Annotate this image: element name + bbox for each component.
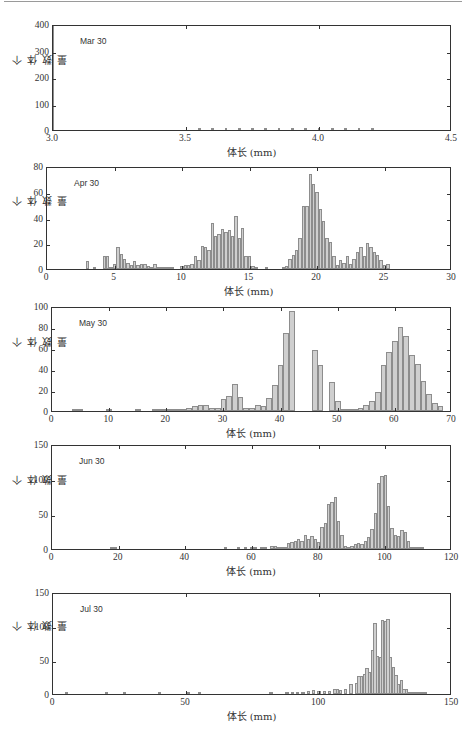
x-tick-label: 5 (99, 272, 129, 282)
histogram-bar (438, 406, 444, 411)
x-tick-label: 0 (36, 552, 66, 562)
x-tick (385, 446, 386, 449)
y-tick-label: 80 (17, 162, 43, 172)
y-tick (447, 194, 450, 195)
y-tick-label: 20 (17, 239, 43, 249)
bars-layer (52, 446, 450, 549)
x-tick (166, 408, 167, 411)
y-tick (53, 79, 56, 80)
histogram-bar (424, 692, 427, 694)
y-tick (447, 662, 450, 663)
panel-date-annotation: Mar 30 (80, 36, 106, 46)
x-tick-label: 50 (322, 414, 352, 424)
x-tick (319, 546, 320, 549)
x-tick-label: 0 (36, 414, 66, 424)
x-tick-label: 10 (93, 414, 123, 424)
y-tick-label: 200 (23, 73, 49, 83)
x-tick-label: 4.5 (436, 133, 466, 143)
bars-layer (47, 168, 450, 269)
histogram-bar (312, 690, 315, 694)
histogram-bar (187, 692, 190, 694)
x-tick (338, 408, 339, 411)
histogram-bar (170, 267, 173, 269)
histogram-bar (291, 128, 294, 130)
x-tick-label: 20 (150, 414, 180, 424)
x-tick (115, 266, 116, 269)
y-tick (47, 245, 50, 246)
x-tick (223, 408, 224, 411)
y-tick-label: 40 (22, 365, 48, 375)
x-tick (281, 308, 282, 311)
x-tick-label: 0 (37, 697, 67, 707)
x-tick-label: 20 (103, 552, 133, 562)
y-tick-label: 100 (22, 302, 48, 312)
y-tick (447, 53, 450, 54)
bars-layer (53, 26, 450, 130)
x-tick (319, 446, 320, 449)
y-tick (53, 106, 56, 107)
x-tick-label: 25 (369, 272, 399, 282)
x-tick (186, 691, 187, 694)
y-tick-label: 50 (23, 656, 49, 666)
plot-area (51, 307, 451, 412)
y-tick (447, 106, 450, 107)
x-tick (395, 408, 396, 411)
histogram-bar (358, 128, 361, 130)
x-tick (281, 408, 282, 411)
panel-date-annotation: Apr 30 (74, 178, 99, 188)
x-tick-label: 10 (166, 272, 196, 282)
y-tick (52, 371, 55, 372)
y-tick-label: 150 (22, 440, 48, 450)
histogram-bar (278, 128, 281, 130)
histogram-bar (105, 692, 108, 694)
y-tick (447, 481, 450, 482)
panel-date-annotation: Jun 30 (79, 456, 105, 466)
histogram-bar (285, 692, 288, 694)
x-tick-label: 20 (301, 272, 331, 282)
y-tick (447, 329, 450, 330)
x-axis-label: 体长 (mm) (191, 563, 311, 578)
y-tick-label: 80 (22, 323, 48, 333)
x-tick (186, 26, 187, 29)
histogram-bar (123, 692, 126, 694)
x-tick-label: 50 (170, 697, 200, 707)
panel-date-annotation: May 30 (79, 318, 107, 328)
bars-layer (53, 594, 450, 694)
x-tick (317, 168, 318, 171)
x-tick-label: 70 (436, 414, 466, 424)
histogram-bar (237, 547, 240, 549)
histogram-bar (198, 128, 201, 130)
y-tick (53, 662, 56, 663)
histogram-bar (291, 692, 294, 694)
x-tick-label: 15 (234, 272, 264, 282)
x-tick (319, 26, 320, 29)
histogram-bar (135, 409, 141, 411)
x-tick (186, 127, 187, 130)
x-tick (385, 168, 386, 171)
x-tick-label: 40 (169, 552, 199, 562)
y-tick-label: 20 (22, 386, 48, 396)
histogram-bar (349, 684, 352, 694)
y-tick (447, 220, 450, 221)
y-tick (52, 329, 55, 330)
x-tick (166, 308, 167, 311)
y-axis-label: 个体数量 (10, 474, 70, 485)
y-tick (447, 245, 450, 246)
x-tick (109, 408, 110, 411)
histogram-bar (65, 692, 68, 694)
histogram-bar (269, 692, 272, 694)
histogram-bar (238, 128, 241, 130)
bars-layer (52, 308, 450, 411)
y-axis-label: 个体数量 (10, 54, 70, 65)
x-tick-label: 60 (236, 552, 266, 562)
x-tick (338, 308, 339, 311)
x-tick (385, 266, 386, 269)
x-tick-label: 60 (379, 414, 409, 424)
x-tick (395, 308, 396, 311)
histogram-bar (307, 691, 310, 694)
x-tick-label: 3.0 (37, 133, 67, 143)
histogram-bar (331, 128, 334, 130)
x-tick (185, 546, 186, 549)
histogram-bar (344, 128, 347, 130)
histogram-bar (93, 267, 96, 269)
